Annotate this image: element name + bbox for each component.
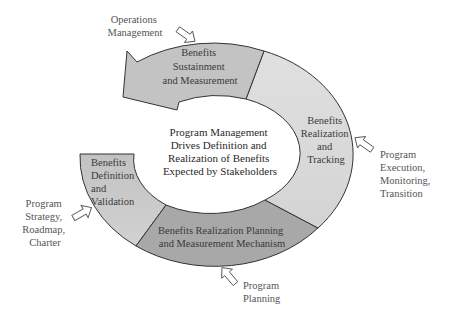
input-label-strategy: Program Strategy, Roadmap, Charter <box>22 198 68 248</box>
benefits-lifecycle-diagram: Benefits Sustainment and Measurement Ben… <box>0 0 450 316</box>
input-arrow-planning <box>217 263 241 288</box>
input-label-planning: Program Planning <box>243 280 282 304</box>
center-statement: Program Management Drives Definition and… <box>163 126 277 177</box>
input-arrow-execution <box>351 132 376 156</box>
input-label-operations: Operations Management <box>108 14 163 38</box>
input-arrow-operations <box>174 24 199 48</box>
input-label-execution: Program Execution, Monitoring, Transitio… <box>380 149 433 199</box>
